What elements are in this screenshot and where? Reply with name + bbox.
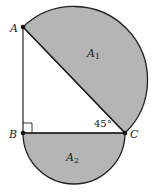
vertex-b-dot — [21, 131, 26, 136]
vertex-a-dot — [21, 25, 26, 30]
vertex-c-dot — [123, 131, 128, 136]
geometry-diagram: A B C A1 A2 45° — [0, 0, 152, 195]
region-a1-semicircle — [23, 6, 148, 133]
label-a: A — [9, 22, 18, 35]
label-b: B — [8, 128, 17, 141]
angle-c-label: 45° — [94, 118, 112, 129]
label-c: C — [130, 128, 139, 141]
